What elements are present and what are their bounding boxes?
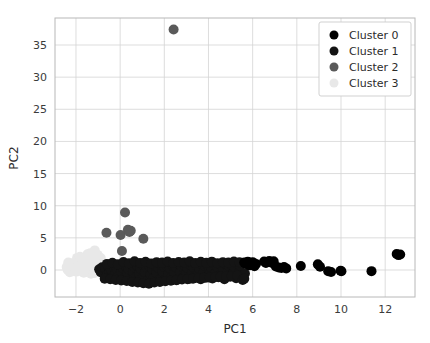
x-tick-label: 0 — [117, 303, 124, 316]
legend-label: Cluster 1 — [349, 45, 399, 58]
data-point — [326, 267, 336, 277]
data-point — [366, 266, 376, 276]
data-point — [101, 228, 111, 238]
x-axis-title: PC1 — [223, 322, 246, 336]
data-point — [281, 263, 291, 273]
data-point — [395, 249, 405, 259]
y-axis-title: PC2 — [7, 146, 21, 169]
data-point — [74, 266, 84, 276]
data-point — [336, 266, 346, 276]
legend-marker-icon — [330, 47, 339, 56]
data-point — [239, 274, 249, 284]
x-tick-label: 6 — [249, 303, 256, 316]
y-tick-label: 20 — [33, 135, 47, 148]
data-point — [296, 261, 306, 271]
y-tick-label: 30 — [33, 71, 47, 84]
legend-marker-icon — [330, 63, 339, 72]
x-tick-label: 4 — [205, 303, 212, 316]
x-tick-label: −2 — [68, 303, 84, 316]
legend-label: Cluster 0 — [349, 29, 399, 42]
legend-label: Cluster 2 — [349, 61, 399, 74]
y-tick-label: 0 — [40, 264, 47, 277]
legend-label: Cluster 3 — [349, 77, 399, 90]
data-point — [126, 226, 136, 236]
legend-marker-icon — [330, 79, 339, 88]
legend-marker-icon — [330, 31, 339, 40]
y-tick-label: 5 — [40, 232, 47, 245]
y-tick-label: 15 — [33, 168, 47, 181]
y-tick-label: 25 — [33, 103, 47, 116]
x-tick-label: 10 — [334, 303, 348, 316]
data-point — [63, 258, 73, 268]
data-point — [169, 25, 179, 35]
data-point — [117, 246, 127, 256]
x-tick-label: 2 — [161, 303, 168, 316]
y-tick-label: 35 — [33, 39, 47, 52]
data-point — [75, 252, 85, 262]
y-tick-label: 10 — [33, 200, 47, 213]
x-tick-label: 12 — [378, 303, 392, 316]
data-point — [138, 234, 148, 244]
x-tick-label: 8 — [293, 303, 300, 316]
plot-canvas: −2024681012 05101520253035 PC1 PC2 Clust… — [0, 0, 430, 343]
legend[interactable]: Cluster 0Cluster 1Cluster 2Cluster 3 — [319, 22, 411, 96]
scatter-plot-figure: −2024681012 05101520253035 PC1 PC2 Clust… — [0, 0, 430, 343]
data-point — [120, 207, 130, 217]
